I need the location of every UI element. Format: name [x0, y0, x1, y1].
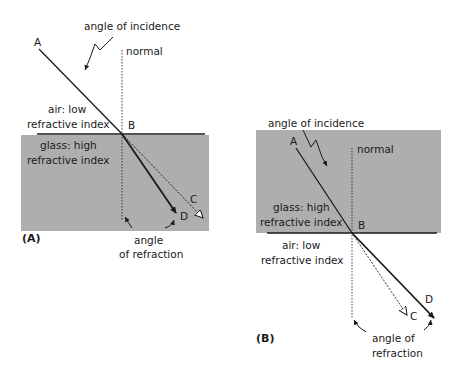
- glass-label-line2-b: refractive index: [260, 216, 343, 228]
- normal-label-a: normal: [126, 45, 163, 57]
- air-label-line1-a: air: low: [48, 103, 87, 115]
- point-a-label-b: A: [290, 135, 298, 147]
- refraction-diagram: angle of incidence normal A B C D air: l…: [0, 0, 457, 373]
- figure-label-b: (B): [256, 332, 274, 345]
- point-b-label-a: B: [128, 119, 135, 131]
- air-label-line2-a: refractive index: [27, 118, 110, 130]
- undeviated-ray-c-b: [352, 233, 407, 315]
- refraction-arc-left-b: [354, 320, 366, 332]
- angle-of-incidence-label-b: angle of incidence: [268, 117, 364, 129]
- angle-of-refraction-line2-a: of refraction: [119, 248, 183, 260]
- figure-a: angle of incidence normal A B C D air: l…: [21, 20, 209, 260]
- angle-of-incidence-label-a: angle of incidence: [84, 20, 180, 32]
- point-c-label-a: C: [190, 193, 197, 205]
- figure-b: angle of incidence normal A B C D glass:…: [256, 117, 441, 359]
- normal-label-b: normal: [357, 143, 394, 155]
- angle-of-refraction-line1-b: angle of: [372, 332, 415, 344]
- point-c-label-b: C: [410, 310, 417, 322]
- incidence-squiggle-arrow-a: [85, 37, 113, 70]
- glass-label-line1-b: glass: high: [273, 201, 330, 213]
- refracted-ray-d-b: [352, 233, 434, 318]
- angle-of-refraction-line1-a: angle: [134, 234, 163, 246]
- angle-of-refraction-line2-b: refraction: [372, 347, 423, 359]
- point-d-label-b: D: [425, 293, 433, 305]
- point-b-label-b: B: [358, 219, 365, 231]
- air-label-line1-b: air: low: [282, 239, 321, 251]
- refraction-arc-right-b: [424, 320, 431, 330]
- point-a-label-a: A: [34, 36, 42, 48]
- figure-label-a: (A): [22, 232, 41, 245]
- air-label-line2-b: refractive index: [261, 254, 344, 266]
- glass-label-line1-a: glass: high: [40, 139, 97, 151]
- glass-label-line2-a: refractive index: [27, 154, 110, 166]
- point-d-label-a: D: [180, 210, 188, 222]
